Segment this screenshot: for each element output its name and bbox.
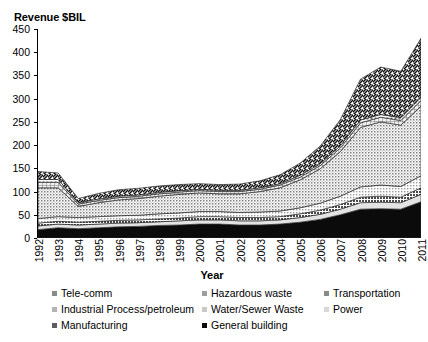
y-axis-tick-200: 200 [12, 140, 30, 150]
legend-item-industrial-process-petroleum: Industrial Process/petroleum [52, 303, 194, 315]
x-axis-tick-2009: 2009 [377, 239, 387, 262]
x-axis-title: Year [0, 269, 424, 281]
legend-item-tele-comm: Tele-comm [52, 287, 112, 299]
y-axis-tick-350: 350 [12, 70, 30, 80]
chart-legend: Tele-commIndustrial Process/petroleumMan… [52, 287, 412, 337]
y-axis-tick-450: 450 [12, 24, 30, 34]
x-axis-tick-1997: 1997 [135, 239, 145, 262]
x-axis-tick-1994: 1994 [74, 239, 84, 262]
x-axis-tick-2004: 2004 [276, 239, 286, 262]
legend-label: Industrial Process/petroleum [61, 303, 194, 315]
y-axis-tick-150: 150 [12, 163, 30, 173]
legend-swatch-icon [202, 291, 207, 296]
legend-label: General building [211, 319, 287, 331]
legend-swatch-icon [52, 323, 57, 328]
x-axis-tick-2005: 2005 [296, 239, 306, 262]
legend-label: Water/Sewer Waste [211, 303, 304, 315]
plot-area [37, 29, 421, 238]
x-axis-tick-2001: 2001 [215, 239, 225, 262]
stacked-area-plot [38, 29, 421, 238]
legend-label: Hazardous waste [211, 287, 292, 299]
x-axis-tick-2008: 2008 [357, 239, 367, 262]
legend-item-hazardous-waste: Hazardous waste [202, 287, 292, 299]
x-axis-tick-1993: 1993 [54, 239, 64, 262]
x-axis-tick-2000: 2000 [195, 239, 205, 262]
legend-swatch-icon [202, 307, 207, 312]
x-axis-tick-1995: 1995 [94, 239, 104, 262]
legend-item-transportation: Transportation [324, 287, 400, 299]
y-axis-tick-250: 250 [12, 117, 30, 127]
legend-label: Tele-comm [61, 287, 112, 299]
legend-swatch-icon [52, 307, 57, 312]
legend-swatch-icon [202, 323, 207, 328]
x-axis-tick-2003: 2003 [256, 239, 266, 262]
y-axis-title: Revenue $BIL [14, 11, 86, 23]
legend-item-manufacturing: Manufacturing [52, 319, 128, 331]
legend-swatch-icon [52, 291, 57, 296]
legend-label: Transportation [333, 287, 400, 299]
legend-label: Manufacturing [61, 319, 128, 331]
x-axis-tick-labels: 1992199319941995199619971998199920002001… [37, 239, 421, 269]
x-axis-tick-1992: 1992 [34, 239, 44, 262]
x-axis-tick-2011: 2011 [417, 239, 427, 262]
x-axis-tick-2010: 2010 [397, 239, 407, 262]
x-axis-tick-1998: 1998 [155, 239, 165, 262]
y-axis-tick-400: 400 [12, 47, 30, 57]
x-axis-tick-2002: 2002 [236, 239, 246, 262]
y-axis-tick-300: 300 [12, 94, 30, 104]
legend-item-power: Power [324, 303, 363, 315]
y-axis-tick-100: 100 [12, 187, 30, 197]
x-axis-tick-2007: 2007 [336, 239, 346, 262]
y-axis-tick-50: 50 [18, 210, 30, 220]
legend-item-general-building: General building [202, 319, 287, 331]
x-axis-tick-1996: 1996 [115, 239, 125, 262]
legend-label: Power [333, 303, 363, 315]
x-axis-tick-2006: 2006 [316, 239, 326, 262]
y-axis-tick-0: 0 [24, 233, 30, 243]
legend-swatch-icon [324, 291, 329, 296]
legend-swatch-icon [324, 307, 329, 312]
legend-item-water-sewer-waste: Water/Sewer Waste [202, 303, 304, 315]
y-axis-tick-labels: 050100150200250300350400450 [0, 29, 34, 238]
x-axis-tick-1999: 1999 [175, 239, 185, 262]
